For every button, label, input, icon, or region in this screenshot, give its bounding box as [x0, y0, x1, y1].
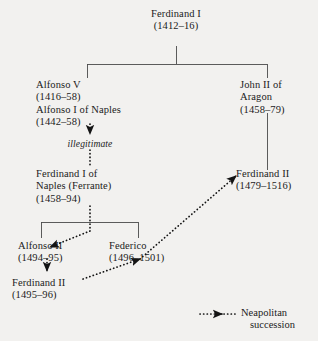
node-alfonso-v[interactable]: Alfonso V (1416–58) Alfonso I of Naples … — [36, 79, 121, 129]
node-name: Ferdinand I of — [36, 168, 111, 180]
node-alt-dates: (1442–58) — [36, 116, 121, 128]
edge-label-illegitimate: illegitimate — [68, 138, 113, 149]
node-dates: (1494–95) — [18, 252, 63, 264]
node-dates: (1495–96) — [12, 289, 65, 301]
node-name: Ferdinand I — [151, 8, 201, 20]
node-name: John II of — [240, 79, 285, 91]
node-ferdinand-i-of-naples-ferrante[interactable]: Ferdinand I of Naples (Ferrante) (1458–9… — [36, 168, 111, 205]
node-dates: (1496–1501) — [109, 252, 164, 264]
node-name: Ferdinand II — [236, 168, 291, 180]
genealogy-diagram: Ferdinand I (1412–16) Alfonso V (1416–58… — [0, 0, 318, 341]
node-name: Alfonso II — [18, 240, 63, 252]
node-name-cont: Aragon — [240, 91, 285, 103]
node-ferdinand-ii-of-aragon[interactable]: Ferdinand II (1479–1516) — [236, 168, 291, 193]
node-dates: (1412–16) — [151, 20, 201, 32]
node-ferdinand-i[interactable]: Ferdinand I (1412–16) — [151, 8, 201, 33]
node-name: Federico — [109, 240, 164, 252]
node-dates: (1458–79) — [240, 104, 285, 116]
node-name: Alfonso V — [36, 79, 121, 91]
node-alt-title: Alfonso I of Naples — [36, 104, 121, 116]
legend-label-line1: Neapolitan — [241, 307, 287, 318]
node-dates: (1458–94) — [36, 193, 111, 205]
node-ferdinand-ii-of-naples[interactable]: Ferdinand II (1495–96) — [12, 277, 65, 302]
node-dates: (1479–1516) — [236, 180, 291, 192]
legend-neapolitan-succession: Neapolitan succession — [241, 307, 295, 332]
node-john-ii-of-aragon[interactable]: John II of Aragon (1458–79) — [240, 79, 285, 116]
node-name-cont: Naples (Ferrante) — [36, 180, 111, 192]
legend-label-line2: succession — [241, 319, 295, 331]
node-name: Ferdinand II — [12, 277, 65, 289]
node-alfonso-ii[interactable]: Alfonso II (1494–95) — [18, 240, 63, 265]
node-federico[interactable]: Federico (1496–1501) — [109, 240, 164, 265]
node-dates: (1416–58) — [36, 91, 121, 103]
